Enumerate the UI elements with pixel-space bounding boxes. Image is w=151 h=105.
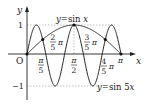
svg-text:5: 5: [85, 43, 90, 52]
point-origin: [25, 52, 28, 55]
svg-text:3: 3: [85, 33, 90, 42]
y-axis-arrow-icon: [25, 6, 29, 12]
svg-text:π: π: [71, 56, 78, 65]
point-5pi-over-6: [104, 38, 107, 41]
tick-label-pi-over-2: π 2: [71, 56, 78, 75]
tick-label-pi: π: [117, 56, 124, 65]
label-sin-5x-var: x: [130, 82, 135, 92]
svg-text:5: 5: [39, 66, 44, 75]
y-tick-1: 1: [18, 21, 23, 30]
label-sin-x: y=sin x: [55, 14, 88, 24]
svg-text:π: π: [91, 38, 98, 47]
svg-text:2: 2: [51, 33, 56, 42]
origin-label: O: [16, 56, 23, 66]
label-sin-x-var: x: [83, 14, 88, 24]
y-tick-minus-1: −1: [12, 82, 24, 91]
svg-text:π: π: [57, 38, 64, 47]
tick-label-pi-over-5: π 5: [38, 56, 45, 75]
svg-text:5: 5: [102, 67, 107, 76]
svg-text:4: 4: [102, 57, 107, 66]
x-axis-label: x: [136, 56, 141, 66]
svg-text:5: 5: [51, 43, 56, 52]
label-sin-x-fn: =sin: [61, 14, 83, 24]
point-pi-over-6: [41, 38, 44, 41]
tick-label-3pi-over-5: 3 5 π: [84, 33, 98, 52]
graph-canvas: y x O 1 −1 y=sin x y=sin 5x 2 5 π 3 5 π …: [0, 0, 151, 105]
tick-label-4pi-over-5: 4 5 π: [101, 57, 115, 76]
sine-graph-figure: y x O 1 −1 y=sin x y=sin 5x 2 5 π 3 5 π …: [0, 0, 151, 105]
tick-label-2pi-over-5: 2 5 π: [50, 33, 64, 52]
svg-text:2: 2: [72, 66, 77, 75]
svg-text:π: π: [38, 56, 45, 65]
label-sin-5x-fn: =sin 5: [102, 82, 130, 92]
y-axis-label: y: [16, 5, 23, 15]
svg-text:π: π: [108, 62, 115, 71]
label-sin-5x: y=sin 5x: [96, 82, 135, 92]
